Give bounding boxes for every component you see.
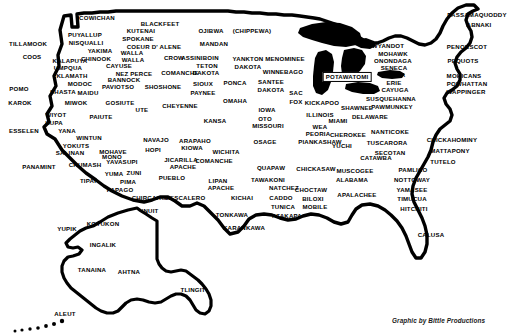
tribe-label: CAYUSE bbox=[106, 63, 132, 69]
tribe-label: HUPA bbox=[45, 120, 63, 126]
tribe-label: TONKAWA bbox=[216, 212, 248, 218]
tribe-label: CHEROKEE bbox=[330, 132, 366, 138]
tribe-label: POMO bbox=[9, 86, 28, 92]
tribe-label: PAMLICO bbox=[398, 167, 427, 173]
tribe-label: SUSQUEHANNA bbox=[366, 96, 416, 102]
tribe-label: ASSINIBOIN bbox=[181, 55, 219, 61]
tribe-label: YUCHI bbox=[332, 143, 352, 149]
tribe-label: COMANCHE bbox=[161, 70, 198, 76]
tribe-label: PIMA bbox=[120, 179, 136, 185]
tribe-label: WYANDOT bbox=[372, 43, 404, 49]
tribe-label: TUNICA bbox=[271, 204, 295, 210]
tribe-label: MATTAPONY bbox=[430, 148, 470, 154]
tribe-label: ALEUT bbox=[54, 311, 75, 317]
tribe-label: INUIT bbox=[142, 208, 159, 214]
tribe-label: PENOBSCOT bbox=[447, 44, 487, 50]
tribe-label: TUSCARORA bbox=[367, 140, 408, 146]
tribe-label: IOWA bbox=[258, 107, 275, 113]
tribe-label: POTAWATOMI bbox=[323, 72, 372, 82]
tribe-label: CHICKAHOMINY bbox=[427, 137, 477, 143]
tribe-label: UTE bbox=[136, 107, 149, 113]
tribe-label: UMPQUA bbox=[54, 65, 82, 71]
tribe-label: POWHATTAN bbox=[447, 81, 488, 87]
tribe-label: WICHITA bbox=[212, 149, 239, 155]
tribe-label: HITCHITI bbox=[400, 206, 427, 212]
tribe-label: WAPPINGER bbox=[446, 89, 485, 95]
tribe-label: PUYALLUP bbox=[68, 32, 102, 38]
tribe-label: PAVIOTSO bbox=[102, 84, 134, 90]
tribe-label: NANTICOKE bbox=[371, 129, 409, 135]
tribe-label: KAROK bbox=[8, 100, 31, 106]
tribe-label: KLAMATH bbox=[56, 73, 87, 79]
tribe-label: ATAKAPA bbox=[272, 213, 302, 219]
tribe-label: YAVASUPI bbox=[106, 159, 137, 165]
tribe-label: MENOMINEE bbox=[265, 56, 304, 62]
tribe-label: PAWMUNKEY bbox=[371, 104, 413, 110]
tribe-label: NISQUALLI bbox=[69, 40, 104, 46]
tribe-label: ZUNI bbox=[126, 170, 141, 176]
tribe-label: PAYNEE bbox=[190, 90, 215, 96]
tribe-label: SIOUX bbox=[193, 81, 213, 87]
tribe-label: PUEBLO bbox=[159, 175, 186, 181]
tribe-label: CADDO bbox=[269, 195, 292, 201]
tribe-label: KARANKAWA bbox=[223, 225, 265, 231]
tribe-label: DELAWARE bbox=[352, 114, 388, 120]
tribal-map-figure: COWICHANPUYALLUPNISQUALLIYAKIMAKALAPUYAC… bbox=[0, 0, 521, 334]
tribe-label: YAMASEE bbox=[397, 187, 428, 193]
tribe-label: QUAPAW bbox=[257, 165, 285, 171]
tribe-label: CALUSA bbox=[418, 232, 445, 238]
tribe-label: APALACHEE bbox=[337, 192, 376, 198]
tribe-label: PEQUOTS bbox=[447, 58, 478, 64]
tribe-label: CHICKASAW bbox=[296, 166, 335, 172]
tribe-label: CHEYENNE bbox=[162, 103, 197, 109]
tribe-label: APACHE bbox=[208, 185, 234, 191]
tribe-label: INGALIK bbox=[90, 242, 116, 248]
tribe-label: SHASTA bbox=[50, 89, 76, 95]
tribe-label: MESCALERO bbox=[165, 195, 206, 201]
tribe-label: MOBILE bbox=[303, 204, 328, 210]
tribe-label: ONEIDA bbox=[381, 72, 406, 78]
tribe-label: PONCA bbox=[223, 80, 246, 86]
tribe-label: PAIUTE bbox=[89, 114, 112, 120]
tribe-label: YUMA bbox=[105, 171, 124, 177]
tribe-label: TIMUCUA bbox=[397, 196, 427, 202]
tribe-label: TILLAMOOK bbox=[9, 41, 47, 47]
tribe-label: SALINAN bbox=[56, 150, 84, 156]
tribe-label: TIPAI bbox=[80, 178, 96, 184]
tribe-label: PASSAMAQUODDY bbox=[447, 12, 506, 18]
tribe-label: PEORIA bbox=[306, 131, 331, 137]
tribe-label: WIYOT bbox=[46, 112, 67, 118]
tribe-label: CAYUGA bbox=[381, 87, 408, 93]
tribe-label: MOHICANS bbox=[447, 73, 482, 79]
tribe-label: MIAMI bbox=[329, 118, 348, 124]
tribe-label: COWICHAN bbox=[79, 15, 115, 21]
graphic-credit: Graphic by Bittle Productions bbox=[392, 317, 485, 324]
tribe-label: SANTEE bbox=[258, 79, 284, 85]
tribe-label: SECOTAN bbox=[375, 150, 406, 156]
tribe-label: PAPAGO bbox=[107, 187, 134, 193]
tribe-label: NAVAJO bbox=[143, 137, 169, 143]
tribe-label: (CHIPPEWA) bbox=[233, 28, 272, 34]
tribe-label-layer: COWICHANPUYALLUPNISQUALLIYAKIMAKALAPUYAC… bbox=[0, 0, 521, 334]
tribe-label: WINNEBAGO bbox=[263, 69, 303, 75]
tribe-label: SHOSHONE bbox=[145, 84, 181, 90]
tribe-label: BILOXI bbox=[302, 196, 324, 202]
tribe-label: TAWAKONI bbox=[251, 177, 285, 183]
tribe-label: YANKTON bbox=[233, 56, 264, 62]
tribe-label: DAKOTA bbox=[235, 64, 262, 70]
tribe-label: OSAGE bbox=[253, 139, 276, 145]
tribe-label: YUPIK bbox=[57, 226, 77, 232]
tribe-label: BLACKFEET bbox=[141, 21, 180, 27]
tribe-label: COOS bbox=[23, 54, 42, 60]
tribe-label: YANA bbox=[58, 128, 76, 134]
tribe-label: CHUMASH bbox=[69, 162, 102, 168]
tribe-label: MISSOURI bbox=[252, 123, 284, 129]
tribe-label: APACHE bbox=[170, 164, 196, 170]
tribe-label: AHTNA bbox=[118, 269, 140, 275]
tribe-label: CHOCTAW bbox=[295, 187, 327, 193]
tribe-label: MOHAVE bbox=[99, 149, 127, 155]
tribe-label: SPOKANE bbox=[122, 36, 154, 42]
tribe-label: SHAWNEE bbox=[341, 105, 373, 111]
tribe-label: KOYUKON bbox=[87, 221, 120, 227]
tribe-label: KICKAPOO bbox=[305, 100, 339, 106]
